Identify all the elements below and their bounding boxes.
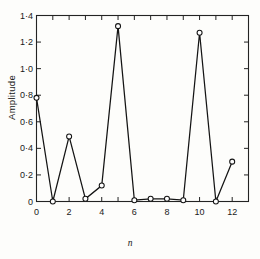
data-point-marker: [83, 196, 88, 201]
data-markers: [34, 24, 235, 204]
data-series: [37, 26, 233, 201]
data-point-marker: [148, 196, 153, 201]
series-line: [37, 26, 233, 201]
plot-area: [0, 0, 260, 259]
data-point-marker: [34, 95, 39, 100]
plot-box: [37, 16, 249, 202]
data-point-marker: [213, 199, 218, 204]
data-point-marker: [132, 198, 137, 203]
data-point-marker: [230, 159, 235, 164]
data-point-marker: [164, 196, 169, 201]
data-point-marker: [50, 199, 55, 204]
data-point-marker: [67, 134, 72, 139]
axis-ticks: [37, 16, 249, 202]
data-point-marker: [116, 24, 121, 29]
chart-figure: Amplitude n 00·20·40·60·81·01·21·4 02468…: [0, 0, 260, 259]
data-point-marker: [99, 183, 104, 188]
data-point-marker: [181, 198, 186, 203]
axis-frame: [37, 16, 249, 202]
data-point-marker: [197, 30, 202, 35]
